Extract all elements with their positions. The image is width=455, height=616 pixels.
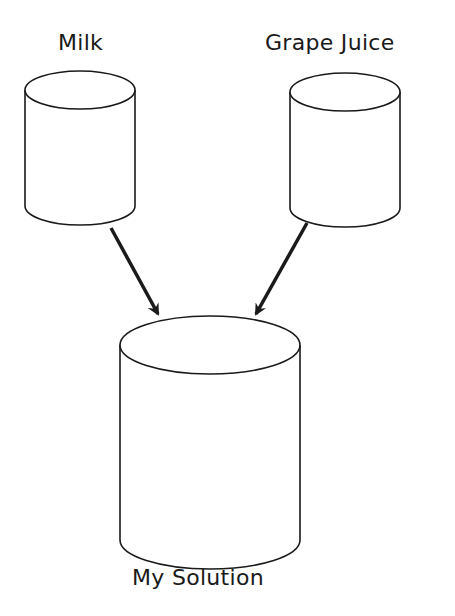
label-my-solution: My Solution (132, 565, 264, 590)
label-grape-juice: Grape Juice (265, 30, 395, 55)
grape-juice-cylinder (290, 73, 400, 227)
arrow-milk-to-solution (111, 228, 158, 314)
milk-cylinder (25, 71, 135, 225)
my-solution-cylinder (120, 316, 300, 569)
arrow-grape-juice-to-solution (256, 223, 307, 314)
label-milk: Milk (58, 30, 103, 55)
diagram-canvas (0, 0, 455, 616)
